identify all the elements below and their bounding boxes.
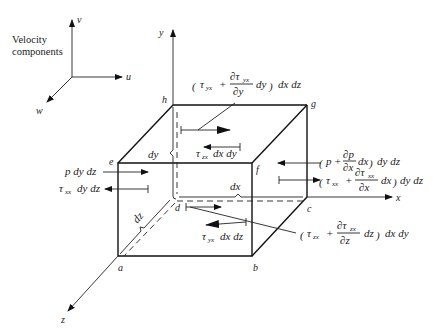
left-normal-tau: τ — [59, 182, 64, 194]
top-shear-num-sub: yx — [242, 76, 250, 84]
dimension-markers: dy dx dz — [120, 107, 303, 254]
top-shear-diff: dy — [256, 78, 267, 90]
bottom-shear-arrow — [206, 222, 246, 225]
right-normal-num-sub: xx — [367, 172, 375, 180]
top-shear-tau-sub: yx — [205, 84, 213, 92]
corner-b: b — [253, 262, 258, 273]
label-right-normal: ( τ xx + ∂τ xx ∂x dx ) dy dz — [319, 166, 424, 193]
z-axis — [68, 256, 118, 311]
right-pressure-p: p — [325, 155, 332, 167]
corner-g: g — [311, 98, 316, 109]
svg-text:): ) — [392, 176, 397, 189]
dx-label: dx — [230, 180, 241, 192]
front-shear-num: ∂τ — [337, 219, 347, 231]
front-shear-plus: + — [326, 227, 333, 239]
top-shear-leader — [198, 103, 235, 130]
right-normal-plus: + — [345, 174, 352, 186]
y-axis-label: y — [158, 27, 164, 38]
top-shear-tau: τ — [200, 78, 205, 90]
svg-text:(: ( — [192, 80, 197, 93]
edge-e-h — [118, 105, 173, 163]
legend-title-line2: components — [12, 46, 63, 57]
dx-brace — [179, 194, 303, 197]
dy-brace — [170, 107, 176, 199]
dz-label: dz — [130, 209, 146, 225]
corner-c: c — [307, 203, 312, 214]
x-axis-label: x — [395, 192, 401, 203]
left-normal-area: dy dz — [77, 182, 101, 194]
back-shear-tau: τ — [196, 147, 201, 159]
top-shear-area: dx dz — [278, 78, 302, 90]
legend-title-line1: Velocity — [12, 34, 48, 45]
corner-d: d — [175, 202, 181, 213]
corner-e: e — [109, 156, 114, 167]
corner-f: f — [256, 164, 260, 175]
back-shear-area: dx dy — [213, 147, 237, 159]
front-shear-tau: τ — [307, 227, 312, 239]
corner-h: h — [162, 94, 167, 105]
top-shear-den: ∂y — [233, 85, 243, 97]
fluid-element-force-diagram: Velocity components v u w y x z a b — [0, 0, 434, 333]
label-bottom-shear: τ yx dx dz — [202, 230, 244, 244]
svg-text:(: ( — [319, 176, 324, 189]
right-normal-den: ∂x — [359, 181, 369, 193]
front-shear-area: dx dy — [385, 227, 409, 239]
legend-v-label: v — [77, 14, 82, 25]
front-face — [118, 163, 252, 256]
right-normal-diff: dx — [381, 174, 392, 186]
front-shear-num-sub: zx — [349, 225, 357, 233]
left-normal-tau-sub: xx — [64, 188, 72, 196]
legend-w-axis — [47, 77, 72, 102]
velocity-components-legend: Velocity components v u w — [12, 14, 131, 116]
right-normal-tau: τ — [326, 174, 331, 186]
dz-brace — [120, 200, 170, 254]
bottom-shear-tau: τ — [202, 230, 207, 242]
bottom-shear-area: dx dz — [220, 230, 244, 242]
legend-u-label: u — [126, 71, 131, 82]
label-back-shear: τ zx dx dy — [196, 147, 237, 161]
legend-w-label: w — [36, 105, 43, 116]
top-shear-plus: + — [219, 78, 226, 90]
bottom-shear-tau-sub: yx — [207, 236, 215, 244]
svg-text:(: ( — [319, 157, 324, 170]
top-shear-num: ∂τ — [230, 70, 240, 82]
corner-labels: a b c d e f g h — [109, 94, 316, 273]
back-shear-tau-sub: zx — [201, 153, 209, 161]
svg-text:(: ( — [300, 229, 305, 242]
label-top-shear: ( τ yx + ∂τ yx ∂y dy ) dx dz — [192, 70, 302, 97]
z-axis-label: z — [60, 314, 65, 325]
front-shear-den: ∂z — [340, 234, 350, 246]
label-left-pressure: p dy dz — [64, 165, 97, 177]
right-normal-area: dy dz — [400, 174, 424, 186]
right-pressure-plus: + — [334, 155, 341, 167]
svg-text:): ) — [375, 229, 380, 242]
svg-text:): ) — [268, 80, 273, 93]
front-shear-tau-sub: zx — [312, 233, 320, 241]
front-shear-diff: dz — [364, 227, 375, 239]
svg-text:): ) — [368, 157, 373, 170]
right-normal-tau-sub: xx — [331, 180, 339, 188]
right-normal-num: ∂τ — [355, 166, 365, 178]
label-front-shear: ( τ zx + ∂τ zx ∂z dz ) dx dy — [300, 219, 409, 246]
right-pressure-area: dy dz — [377, 155, 401, 167]
hidden-edge-d-a — [124, 203, 175, 256]
left-pressure-text: p dy dz — [64, 165, 97, 177]
edge-c-b — [252, 197, 307, 256]
corner-a: a — [118, 262, 123, 273]
label-left-normal: τ xx dy dz — [59, 182, 101, 196]
edge-g-f — [252, 105, 307, 163]
right-pressure-den: ∂x — [343, 161, 353, 173]
dy-label: dy — [148, 148, 159, 160]
right-pressure-num: ∂p — [343, 148, 354, 160]
